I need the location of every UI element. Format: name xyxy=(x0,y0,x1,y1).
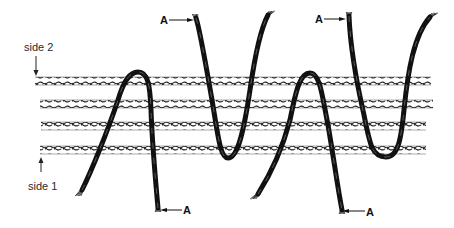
end-label-text: A xyxy=(183,204,191,216)
end-label-text: A xyxy=(315,13,323,25)
side-2-label: side 2 xyxy=(24,41,53,53)
knotting-diagram: side 2 side 1 A A A A xyxy=(0,0,454,228)
warp-cords xyxy=(35,77,433,154)
frayed-yarn-end xyxy=(155,208,161,212)
arrow-left-icon xyxy=(160,208,167,212)
side-1-label: side 1 xyxy=(28,180,57,192)
a-label-bottom-2: A xyxy=(342,206,374,218)
a-label-top-1: A xyxy=(160,14,194,26)
a-label-bottom-1: A xyxy=(160,204,191,216)
frayed-yarn-end xyxy=(428,13,437,17)
frayed-yarn-end xyxy=(250,194,259,199)
yarn-loop-3 xyxy=(258,73,342,210)
warp-cord-row xyxy=(40,100,433,108)
yarn-loop-1 xyxy=(82,72,158,208)
yarn-loop-2 xyxy=(196,15,268,158)
warp-cord-row xyxy=(35,77,431,85)
side-1-arrow-icon xyxy=(39,157,44,172)
end-label-text: A xyxy=(366,206,374,218)
yarn-loop-4 xyxy=(349,16,430,157)
yarn-strands xyxy=(75,11,438,214)
frayed-yarn-end xyxy=(75,190,83,196)
frayed-yarn-end xyxy=(346,12,352,16)
arrow-right-icon xyxy=(187,18,194,22)
side-2-arrow-icon xyxy=(34,56,39,76)
end-label-text: A xyxy=(160,14,168,26)
a-label-top-2: A xyxy=(315,13,346,25)
arrow-right-icon xyxy=(339,17,346,21)
frayed-yarn-end xyxy=(266,11,274,15)
